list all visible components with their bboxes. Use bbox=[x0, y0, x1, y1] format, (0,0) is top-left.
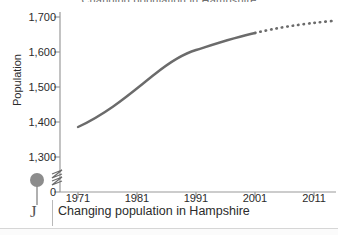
y-axis-tick-labels: 1,700 1,600 1,500 1,400 1,300 0 bbox=[8, 0, 56, 200]
footer-strip bbox=[0, 229, 338, 235]
y-tick-label: 1,300 bbox=[12, 151, 56, 163]
caption-divider bbox=[52, 200, 53, 226]
chart-caption: Changing population in Hampshire bbox=[58, 204, 250, 218]
x-tick-label: 1971 bbox=[55, 192, 101, 204]
x-tick-label: 1991 bbox=[173, 192, 219, 204]
y-tick-label: 1,700 bbox=[12, 11, 56, 23]
y-tick-label: 1,600 bbox=[12, 46, 56, 58]
marker-letter: J bbox=[30, 203, 37, 221]
x-tick-label: 1981 bbox=[114, 192, 160, 204]
chart-page: Changing population in Hampshire bbox=[0, 0, 338, 235]
x-tick-label: 2001 bbox=[232, 192, 278, 204]
series-recorded-line bbox=[78, 33, 255, 127]
map-pin-icon bbox=[28, 172, 46, 206]
chart-plot-area: Population 1,700 1,600 1,500 1,400 1,300… bbox=[0, 0, 338, 215]
y-tick-label: 1,400 bbox=[12, 116, 56, 128]
y-tick-label: 1,500 bbox=[12, 81, 56, 93]
series-projected-line bbox=[255, 21, 332, 33]
x-tick-label: 2011 bbox=[291, 192, 337, 204]
